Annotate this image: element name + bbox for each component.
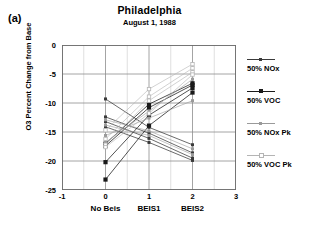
data-point xyxy=(191,153,194,156)
data-point xyxy=(104,137,107,140)
data-point xyxy=(147,87,150,90)
legend-label: 50% NOx xyxy=(247,64,319,73)
data-point xyxy=(104,145,107,148)
x-category-label: BEIS1 xyxy=(137,204,160,213)
legend-marker xyxy=(247,88,275,95)
legend-swatch-icon xyxy=(259,89,263,93)
data-point xyxy=(147,106,151,110)
y-tick-label: -5 xyxy=(49,70,56,79)
data-point xyxy=(191,147,194,150)
x-tick-label: 0 xyxy=(103,192,107,201)
x-tick-label: 1 xyxy=(147,192,151,201)
data-point xyxy=(148,141,151,144)
y-axis-tick-labels: 0-5-10-15-20-25 xyxy=(0,45,60,190)
data-point xyxy=(190,90,194,94)
data-point xyxy=(190,86,194,90)
legend-label: 50% VOC xyxy=(247,96,319,105)
y-tick-label: -10 xyxy=(45,99,56,108)
x-axis-tick-labels: -10123No BeisBEIS1BEIS2 xyxy=(62,190,236,226)
legend-swatch-icon xyxy=(259,122,262,125)
data-point xyxy=(191,62,194,65)
data-point xyxy=(148,117,151,120)
panel-label: (a) xyxy=(8,12,21,24)
data-point xyxy=(191,143,194,146)
y-tick-label: -25 xyxy=(45,186,56,195)
data-point xyxy=(147,112,150,115)
y-tick-label: 0 xyxy=(52,41,56,50)
data-point xyxy=(191,67,194,70)
x-tick-label: 3 xyxy=(234,192,238,201)
chart-title: Philadelphia xyxy=(62,4,237,16)
data-point xyxy=(104,129,107,132)
chart-svg xyxy=(62,45,236,190)
legend-label: 50% NOx Pk xyxy=(247,128,319,137)
x-tick-label: 2 xyxy=(190,192,194,201)
data-point xyxy=(104,97,107,100)
chart-subtitle: August 1, 1988 xyxy=(62,18,237,27)
data-point xyxy=(104,115,107,118)
legend-item[interactable]: 50% NOx Pk xyxy=(247,120,319,137)
data-point xyxy=(191,99,194,102)
legend-swatch-icon xyxy=(259,58,262,61)
legend-marker xyxy=(247,120,275,127)
data-point xyxy=(104,134,107,137)
y-tick-label: -15 xyxy=(45,128,56,137)
data-point xyxy=(191,73,194,76)
data-point xyxy=(148,137,151,140)
y-tick-label: -20 xyxy=(45,157,56,166)
x-category-label: BEIS2 xyxy=(181,204,204,213)
legend-label: 50% VOC Pk xyxy=(247,160,319,169)
data-point xyxy=(103,177,107,181)
chart-legend: 50% NOx50% VOC50% NOx Pk50% VOC Pk xyxy=(247,56,319,184)
legend-item[interactable]: 50% VOC xyxy=(247,88,319,105)
legend-item[interactable]: 50% VOC Pk xyxy=(247,152,319,169)
data-point xyxy=(104,118,107,121)
plot-area xyxy=(62,45,236,190)
x-category-label: No Beis xyxy=(91,204,121,213)
legend-marker xyxy=(247,152,275,159)
chart-figure: (a) Philadelphia August 1, 1988 O3 Perce… xyxy=(0,0,324,228)
x-tick-label: -1 xyxy=(59,192,66,201)
data-point xyxy=(148,129,151,132)
data-point xyxy=(148,134,151,137)
data-point xyxy=(191,78,194,81)
data-point xyxy=(191,159,194,162)
data-point xyxy=(147,95,150,98)
legend-marker xyxy=(247,56,275,63)
legend-swatch-icon xyxy=(259,153,264,158)
data-point xyxy=(103,160,107,164)
data-point xyxy=(104,124,107,127)
data-point xyxy=(147,124,151,128)
legend-item[interactable]: 50% NOx xyxy=(247,56,319,73)
data-point xyxy=(147,99,150,102)
